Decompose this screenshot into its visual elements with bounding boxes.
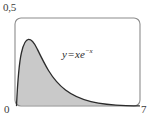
equation-exponent: −x: [85, 47, 93, 55]
y-axis-min-label: 0: [4, 104, 9, 115]
plot-canvas: [0, 0, 152, 126]
y-axis-max-label: 0,5: [3, 2, 16, 13]
x-axis-max-label: 7: [141, 104, 146, 115]
curve-equation-label: y=xe−x: [62, 49, 93, 60]
equation-base: xe: [75, 48, 85, 60]
equation-operator: =: [67, 48, 75, 60]
function-plot-figure: 0,5 0 7 y=xe−x: [0, 0, 152, 126]
